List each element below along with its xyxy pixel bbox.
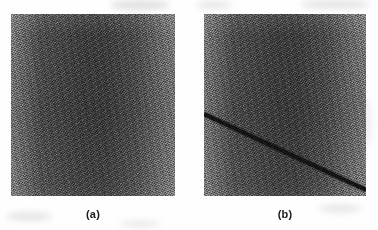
panel-b-grain-texture-secondary — [204, 14, 366, 196]
panel-b-image — [204, 14, 366, 196]
panel-b-caption: (b) — [245, 208, 325, 220]
scan-artifact — [196, 1, 232, 9]
figure-container: (a) (b) — [0, 0, 378, 230]
scan-artifact — [120, 220, 160, 228]
panel-a-grain-texture-secondary — [11, 14, 175, 196]
panel-b-region — [204, 14, 366, 196]
scan-artifact — [110, 0, 170, 10]
panel-a-image — [11, 14, 175, 196]
scan-artifact — [6, 212, 52, 221]
scan-artifact — [300, 0, 370, 9]
panel-a-region — [11, 14, 175, 196]
panel-a-caption: (a) — [53, 208, 133, 220]
